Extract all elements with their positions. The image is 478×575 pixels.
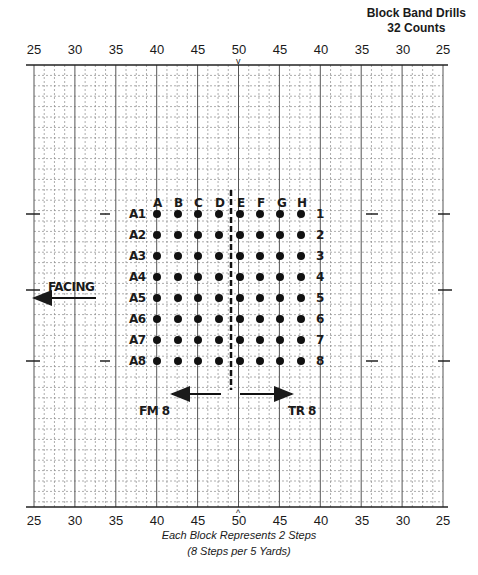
formation-dots bbox=[153, 210, 305, 365]
column-label: G bbox=[277, 196, 286, 210]
row-label: 3 bbox=[316, 249, 324, 263]
row-label: 6 bbox=[316, 312, 324, 326]
row-label: 5 bbox=[316, 291, 324, 305]
column-label: F bbox=[257, 196, 265, 210]
caption-line2: (8 Steps per 5 Yards) bbox=[0, 545, 478, 557]
column-label: A bbox=[153, 196, 162, 210]
row-label: A6 bbox=[129, 312, 146, 326]
column-label: B bbox=[174, 196, 183, 210]
center-marker-top: v bbox=[236, 56, 241, 66]
row-label: A2 bbox=[129, 228, 146, 242]
caption-line1: Each Block Represents 2 Steps bbox=[0, 529, 478, 541]
column-label: E bbox=[237, 196, 245, 210]
center-marker-bottom: ^ bbox=[236, 508, 240, 518]
row-label: A4 bbox=[129, 270, 146, 284]
row-label: A8 bbox=[129, 354, 146, 368]
row-label: A3 bbox=[129, 249, 146, 263]
row-label: 2 bbox=[316, 228, 324, 242]
row-label: A5 bbox=[129, 291, 146, 305]
row-label: A7 bbox=[129, 333, 146, 347]
move-label-fm: FM 8 bbox=[139, 404, 170, 418]
row-label: 1 bbox=[316, 207, 324, 221]
column-label: D bbox=[215, 196, 224, 210]
move-label-tr: TR 8 bbox=[288, 404, 316, 418]
row-label: 4 bbox=[316, 270, 324, 284]
row-label: A1 bbox=[129, 207, 146, 221]
column-label: C bbox=[194, 196, 202, 210]
row-label: 7 bbox=[316, 333, 324, 347]
facing-label: FACING bbox=[48, 280, 94, 294]
row-label: 8 bbox=[316, 354, 324, 368]
column-label: H bbox=[297, 196, 307, 210]
